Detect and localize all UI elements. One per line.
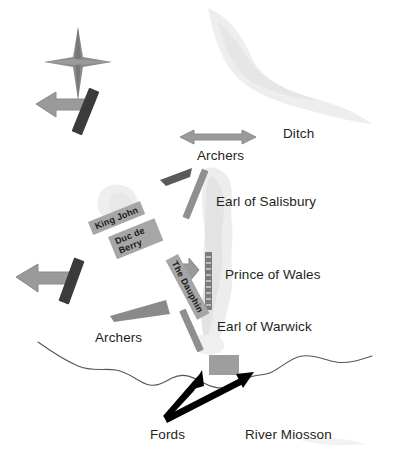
label-ditch: Ditch (283, 126, 314, 141)
ford-arrows-layer (163, 370, 254, 423)
label-archers-south: Archers (95, 330, 142, 345)
block-french-vanguard-north (72, 88, 100, 136)
village-block (209, 355, 239, 375)
wedge-archers-north (160, 168, 192, 186)
label-earl-of-warwick: Earl of Warwick (217, 319, 312, 334)
label-river-miosson: River Miosson (245, 427, 332, 442)
wedge-archers-south (110, 300, 170, 322)
battle-map: Ditch Archers Earl of Salisbury Prince o… (0, 0, 413, 475)
arrow-ford-left-head (190, 370, 204, 390)
arrow-archers-double-headed (180, 130, 256, 144)
map-graphics-layer (0, 0, 413, 475)
label-fords: Fords (150, 427, 185, 442)
label-earl-of-salisbury: Earl of Salisbury (216, 194, 316, 209)
compass-star-icon (44, 27, 112, 100)
ditch-terrain-wash (208, 8, 372, 124)
label-prince-of-wales: Prince of Wales (225, 267, 321, 282)
bar-prince-hatching (206, 256, 211, 306)
label-archers-north: Archers (197, 148, 244, 163)
arrow-ford-right (164, 376, 247, 423)
